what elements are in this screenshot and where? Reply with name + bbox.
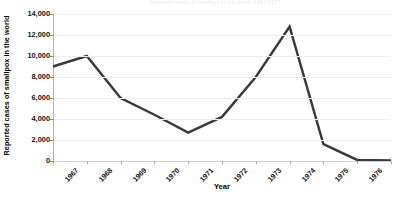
gridline-2000 <box>53 140 391 141</box>
x-tick-mark-1975 <box>323 161 324 164</box>
y-tick-mark-0 <box>50 161 54 162</box>
gridline-14000 <box>53 14 391 15</box>
x-tick-mark-1976 <box>357 161 358 164</box>
plot-area <box>53 14 391 161</box>
x-tick-mark-1970 <box>154 161 155 164</box>
x-axis-tick-labels: 1967196819691970197119721973197419751976… <box>53 161 391 197</box>
y-tick-label-14000: 14,000 <box>14 10 50 18</box>
y-tick-mark-10000 <box>50 56 54 57</box>
x-tick-mark-1968 <box>87 161 88 164</box>
y-tick-label-0: 0 <box>14 157 50 165</box>
y-tick-label-4000: 4,000 <box>14 115 50 123</box>
y-tick-mark-4000 <box>50 119 54 120</box>
y-tick-mark-8000 <box>50 77 54 78</box>
data-series-line <box>53 14 391 161</box>
x-tick-mark-1972 <box>222 161 223 164</box>
x-tick-mark-1974 <box>290 161 291 164</box>
x-axis-title: Year <box>53 182 391 191</box>
x-tick-mark-1969 <box>121 161 122 164</box>
gridline-12000 <box>53 35 391 36</box>
y-tick-mark-2000 <box>50 140 54 141</box>
y-tick-mark-12000 <box>50 35 54 36</box>
y-tick-label-8000: 8,000 <box>14 73 50 81</box>
y-tick-label-10000: 10,000 <box>14 52 50 60</box>
y-tick-label-6000: 6,000 <box>14 94 50 102</box>
smallpox-cases-line-chart: Reported cases of smallpox in the world,… <box>0 0 397 197</box>
cropped-title-remnant: Reported cases of smallpox in the world,… <box>150 0 365 5</box>
y-tick-label-12000: 12,000 <box>14 31 50 39</box>
y-axis-tick-labels: 02,0004,0006,0008,00010,00012,00014,000 <box>12 0 50 197</box>
y-tick-label-2000: 2,000 <box>14 136 50 144</box>
gridline-6000 <box>53 98 391 99</box>
x-tick-mark-1977 <box>391 161 392 164</box>
y-tick-mark-6000 <box>50 98 54 99</box>
y-tick-mark-14000 <box>50 14 54 15</box>
x-tick-mark-1973 <box>256 161 257 164</box>
y-axis-title-text: Reported cases of smallpox in the world <box>2 15 11 155</box>
gridline-4000 <box>53 119 391 120</box>
gridline-8000 <box>53 77 391 78</box>
gridline-10000 <box>53 56 391 57</box>
x-tick-mark-1971 <box>188 161 189 164</box>
